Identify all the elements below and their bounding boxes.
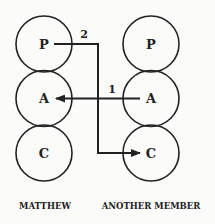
transaction-1-number: 1 [108, 83, 116, 96]
member-parent-label: P [146, 37, 156, 52]
matthew-adult-label: A [38, 91, 50, 106]
matthew-parent-label: P [39, 37, 49, 52]
member-child-label: C [146, 146, 156, 161]
transaction-2-arrow: 2 [54, 28, 140, 153]
matthew-child-label: C [39, 146, 49, 161]
transaction-2-number: 2 [80, 28, 88, 41]
another-member-caption: ANOTHER MEMBER [101, 201, 202, 211]
member-adult-label: A [145, 91, 157, 106]
transactional-diagram: P A C P A C 2 1 MATTHEW ANOTHER MEMBER [0, 0, 215, 224]
matthew-caption: MATTHEW [19, 201, 71, 211]
